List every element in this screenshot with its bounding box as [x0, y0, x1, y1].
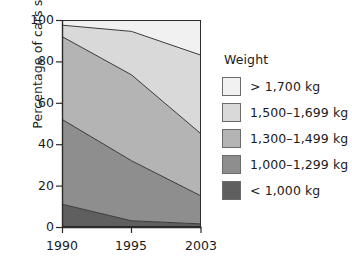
legend-swatch-gt-1700 [222, 77, 241, 96]
legend-item-gt-1700: > 1,700 kg [222, 76, 350, 96]
legend: Weight > 1,700 kg 1,500–1,699 kg 1,300–1… [222, 52, 350, 206]
legend-label-1000-1299: 1,000–1,299 kg [250, 157, 348, 172]
legend-swatch-1300-1499 [222, 129, 241, 148]
x-tick-label-1990: 1990 [34, 240, 90, 252]
x-tick-label-1995: 1995 [103, 240, 159, 252]
y-tick-label-80: 80 [24, 55, 54, 67]
legend-item-1500-1699: 1,500–1,699 kg [222, 102, 350, 122]
y-tick-label-0: 0 [24, 221, 54, 233]
y-tick-label-20: 20 [24, 180, 54, 192]
legend-label-1500-1699: 1,500–1,699 kg [250, 105, 348, 120]
area-band-group [62, 20, 201, 227]
y-tick-label-60: 60 [24, 97, 54, 109]
y-tick-label-100: 100 [24, 14, 54, 26]
legend-label-lt-1000: < 1,000 kg [250, 183, 320, 198]
area-bands-svg [62, 20, 201, 227]
legend-item-1000-1299: 1,000–1,299 kg [222, 154, 350, 174]
legend-swatch-1000-1299 [222, 155, 241, 174]
legend-swatch-1500-1699 [222, 103, 241, 122]
legend-swatch-lt-1000 [222, 181, 241, 200]
plot-area [62, 20, 201, 227]
y-tick-label-40: 40 [24, 138, 54, 150]
x-tick-label-2003: 2003 [173, 240, 229, 252]
stacked-area-chart-figure: Percentage of cars sold 100 80 60 40 20 … [0, 0, 352, 271]
legend-label-1300-1499: 1,300–1,499 kg [250, 131, 348, 146]
legend-item-1300-1499: 1,300–1,499 kg [222, 128, 350, 148]
legend-label-gt-1700: > 1,700 kg [250, 79, 320, 94]
legend-item-lt-1000: < 1,000 kg [222, 180, 350, 200]
legend-title: Weight [224, 52, 350, 67]
